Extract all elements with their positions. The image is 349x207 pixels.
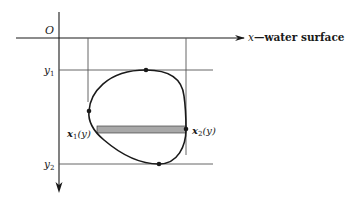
top-point bbox=[144, 68, 149, 73]
boundary-curve bbox=[89, 70, 186, 164]
diagram-canvas: O x—water surface y1 y2 x1(y) x2(y) bbox=[0, 0, 349, 207]
x-axis-suffix: —water surface bbox=[254, 31, 345, 43]
origin-label: O bbox=[45, 24, 54, 37]
y1-label: y1 bbox=[43, 64, 54, 78]
y2-subscript: 2 bbox=[50, 164, 54, 172]
y2-label: y2 bbox=[43, 158, 54, 172]
x1-label: x1(y) bbox=[66, 128, 91, 141]
y1-subscript: 1 bbox=[50, 70, 54, 78]
left-point bbox=[87, 109, 92, 114]
x2-label: x2(y) bbox=[191, 125, 216, 138]
bottom-point bbox=[157, 162, 162, 167]
x2-arg: (y) bbox=[202, 125, 216, 136]
x-axis-label: x—water surface bbox=[248, 31, 345, 43]
x1-arg: (y) bbox=[77, 128, 91, 139]
right-point bbox=[184, 127, 189, 132]
shaded-strip bbox=[97, 126, 186, 133]
